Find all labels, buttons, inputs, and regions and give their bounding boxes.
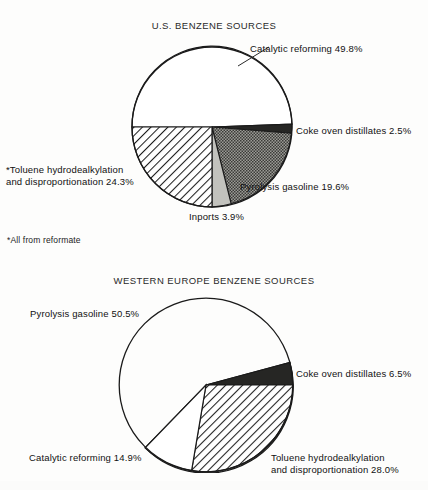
label-we-toluene-line1: Toluene hydrodealkylation [271, 452, 385, 464]
chart-title-western-europe: WESTERN EUROPE BENZENE SOURCES [0, 275, 428, 286]
label-us-coke-oven-distillates: Coke oven distillates 2.5% [296, 125, 411, 137]
slice-us-toluene-hydrodealkylation [132, 127, 212, 207]
page-bottom-edge [0, 481, 428, 490]
footnote-all-from-reformate: *All from reformate [7, 235, 81, 245]
label-us-toluene-line1: *Toluene hydrodealkylation [6, 164, 123, 176]
pie-svg-western-europe [118, 297, 294, 473]
label-us-catalytic-reforming: Catalytic reforming 49.8% [250, 43, 363, 55]
pie-chart-western-europe [118, 297, 294, 473]
label-we-catalytic-reforming: Catalytic reforming 14.9% [29, 452, 142, 464]
label-we-coke-oven-distillates: Coke oven distillates 6.5% [296, 368, 411, 380]
label-us-pyrolysis-gasoline: Pyrolysis gasoline 19.6% [240, 181, 349, 193]
label-we-toluene-line2: and disproportionation 28.0% [271, 464, 399, 476]
slice-we-coke-oven-distillates [206, 362, 293, 385]
chart-title-us: U.S. BENZENE SOURCES [0, 20, 428, 31]
label-us-imports: Inports 3.9% [189, 211, 244, 223]
label-we-pyrolysis-gasoline: Pyrolysis gasoline 50.5% [30, 308, 139, 320]
label-us-toluene-line2: and disproportionation 24.3% [6, 176, 134, 188]
figure-page: U.S. BENZENE SOURCES [0, 0, 428, 490]
